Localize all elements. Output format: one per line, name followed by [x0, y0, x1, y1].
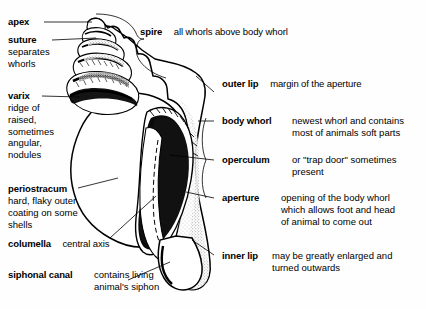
label-siphonal-canal-desc: contains living animal's siphon — [94, 269, 159, 293]
label-varix-desc-line-3: sometimes — [8, 126, 54, 138]
label-apex-term: apex — [8, 16, 29, 27]
spire-shading — [79, 40, 129, 88]
label-operculum-desc: or "trap door" sometimes present — [292, 154, 396, 178]
columella-axis — [153, 140, 168, 258]
label-suture-term: suture — [8, 34, 36, 45]
label-varix-desc-line-1: ridge of — [8, 102, 54, 114]
apex-whorl — [87, 18, 105, 35]
label-siphonal-canal-term: siphonal canal — [8, 269, 73, 280]
label-outer-lip-term: outer lip — [222, 78, 259, 89]
whorl-3 — [78, 39, 124, 67]
label-columella-term: columella — [8, 238, 51, 249]
leader-right-spine — [202, 118, 206, 198]
label-spire: spire all whorls above body whorl — [140, 26, 288, 38]
leader-aperture — [186, 192, 214, 198]
shading-right-column — [173, 100, 209, 290]
label-body-whorl-desc-line-2: most of animals soft parts — [292, 127, 404, 139]
label-aperture-term: aperture — [222, 192, 259, 203]
label-inner-lip: inner lip — [222, 250, 258, 262]
whorl-4 — [73, 53, 131, 88]
label-body-whorl: body whorl — [222, 115, 272, 127]
label-suture-desc: separates whorls — [8, 46, 50, 70]
label-siphonal-canal: siphonal canal — [8, 269, 73, 281]
label-periostracum-desc-line-1: hard, flaky outer — [8, 195, 78, 207]
shading-left-bulge — [71, 93, 176, 247]
label-varix-desc-line-2: raised, — [8, 114, 54, 126]
outer-lip-rim — [136, 108, 193, 255]
operculum-stipple — [139, 118, 189, 246]
body-whorl-left-bulge — [71, 93, 176, 247]
varix-ridge — [70, 88, 138, 106]
label-varix-term: varix — [8, 90, 30, 101]
shell-anatomy-diagram: apex suture separates whorls varix ridge… — [0, 0, 426, 309]
label-periostracum-term: periostracum — [8, 183, 67, 194]
label-varix-desc-line-5: nodules — [8, 149, 54, 161]
label-periostracum: periostracum — [8, 183, 67, 195]
label-body-whorl-desc: newest whorl and contains most of animal… — [292, 115, 404, 139]
suture-lines — [73, 32, 128, 85]
label-aperture-desc-line-2: which allows foot and head — [281, 204, 395, 216]
label-inner-lip-term: inner lip — [222, 250, 258, 261]
label-operculum-term: operculum — [222, 154, 270, 165]
siphonal-canal-group — [158, 236, 202, 290]
label-operculum-desc-line-1: or "trap door" sometimes — [292, 154, 396, 166]
label-aperture-desc: opening of the body whorl which allows f… — [281, 192, 395, 227]
label-periostracum-desc-line-2: coating on some — [8, 207, 78, 219]
label-inner-lip-desc-line-2: turned outwards — [272, 262, 392, 274]
label-columella-desc: central axis — [62, 238, 109, 249]
label-varix: varix — [8, 90, 30, 102]
inner-lip-callus — [140, 127, 170, 261]
spire-whorls — [67, 18, 139, 114]
suture-texture — [76, 60, 127, 87]
label-columella: columella central axis — [8, 238, 109, 250]
leader-inner-lip — [192, 240, 214, 255]
label-operculum: operculum — [222, 154, 270, 166]
siphonal-canal-shading — [163, 238, 201, 288]
siphonal-canal-shape — [158, 236, 202, 290]
whorl-5 — [67, 71, 139, 114]
label-apex: apex — [8, 16, 29, 28]
aperture-group — [136, 107, 198, 261]
shading-left-bulge-dark — [71, 93, 176, 247]
label-varix-desc: ridge of raised, sometimes angular, nodu… — [8, 102, 54, 161]
siphonal-canal-edge — [162, 246, 172, 284]
whorl-2 — [82, 28, 116, 51]
label-aperture: aperture — [222, 192, 259, 204]
label-suture-desc-line-1: separates — [8, 46, 50, 58]
label-siphonal-canal-desc-line-2: animal's siphon — [94, 281, 159, 293]
label-spire-term: spire — [140, 26, 162, 37]
label-body-whorl-desc-line-1: newest whorl and contains — [292, 115, 404, 127]
label-varix-desc-line-4: angular, — [8, 137, 54, 149]
label-suture: suture — [8, 34, 36, 46]
label-spire-desc: all whorls above body whorl — [174, 26, 288, 37]
label-body-whorl-term: body whorl — [222, 115, 272, 126]
leader-varix — [42, 96, 80, 97]
leader-spire-bracket-lower — [136, 39, 166, 78]
label-suture-desc-line-2: whorls — [8, 58, 50, 70]
leader-suture — [52, 38, 96, 40]
label-aperture-desc-line-3: of animal to come out — [281, 216, 395, 228]
leader-outer-lip — [196, 76, 214, 92]
label-inner-lip-desc: may be greatly enlarged and turned outwa… — [272, 250, 392, 274]
label-siphonal-canal-desc-line-1: contains living — [94, 269, 159, 281]
leader-periostracum — [78, 178, 118, 188]
operculum-shape — [139, 118, 189, 246]
aperture-cavity — [138, 115, 186, 249]
label-aperture-desc-line-1: opening of the body whorl — [281, 192, 395, 204]
label-periostracum-desc-line-3: shells — [8, 219, 78, 231]
outer-lip-ribs — [150, 107, 198, 156]
label-outer-lip-desc: margin of the aperture — [270, 78, 361, 89]
shading-right-column-mid — [184, 112, 209, 288]
label-inner-lip-desc-line-1: may be greatly enlarged and — [272, 250, 392, 262]
leader-columella — [110, 196, 156, 238]
label-periostracum-desc: hard, flaky outer coating on some shells — [8, 195, 78, 230]
leader-spire-bracket — [96, 14, 144, 39]
label-operculum-desc-line-2: present — [292, 166, 396, 178]
leader-operculum — [170, 155, 214, 160]
label-outer-lip: outer lip margin of the aperture — [222, 78, 361, 90]
